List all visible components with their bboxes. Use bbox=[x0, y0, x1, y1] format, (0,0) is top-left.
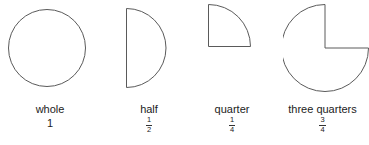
label-half-value: 1 2 bbox=[114, 116, 184, 134]
label-three-quarters-value: 3 4 bbox=[276, 116, 369, 134]
label-whole: whole 1 bbox=[0, 103, 100, 130]
shape-three-quarters-circle bbox=[283, 0, 369, 100]
fraction-denominator: 4 bbox=[319, 126, 325, 134]
shape-half-circle bbox=[124, 0, 174, 100]
label-half: half 1 2 bbox=[114, 103, 184, 134]
fraction-denominator: 2 bbox=[146, 126, 152, 134]
shape-quarter-circle bbox=[206, 0, 258, 100]
label-quarter-value: 1 4 bbox=[196, 116, 268, 134]
fraction-numerator: 3 bbox=[319, 116, 325, 124]
fractions-diagram: whole 1 half 1 2 quarter 1 4 three quart… bbox=[0, 0, 369, 145]
fraction-numerator: 1 bbox=[229, 116, 235, 124]
label-three-quarters: three quarters 3 4 bbox=[276, 103, 369, 134]
fraction-numerator: 1 bbox=[146, 116, 152, 124]
shape-whole-circle bbox=[8, 0, 88, 100]
label-quarter: quarter 1 4 bbox=[196, 103, 268, 134]
fraction-denominator: 4 bbox=[229, 126, 235, 134]
label-whole-value: 1 bbox=[0, 116, 100, 130]
fraction-one-quarter: 1 4 bbox=[229, 116, 235, 134]
fraction-three-quarters: 3 4 bbox=[319, 116, 325, 134]
fraction-one-half: 1 2 bbox=[146, 116, 152, 134]
label-whole-word: whole bbox=[0, 103, 100, 116]
